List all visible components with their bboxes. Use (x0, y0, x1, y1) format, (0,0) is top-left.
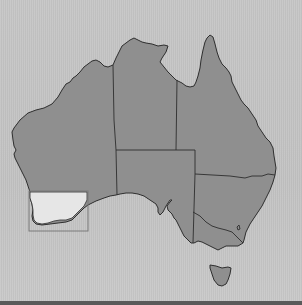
map-svg (0, 0, 302, 305)
highlighted-region-sw-wa (30, 192, 87, 224)
tasmania (210, 265, 231, 286)
bottom-bar (0, 301, 302, 305)
australia-map: Map of Australia South West Western Aust… (0, 0, 302, 305)
